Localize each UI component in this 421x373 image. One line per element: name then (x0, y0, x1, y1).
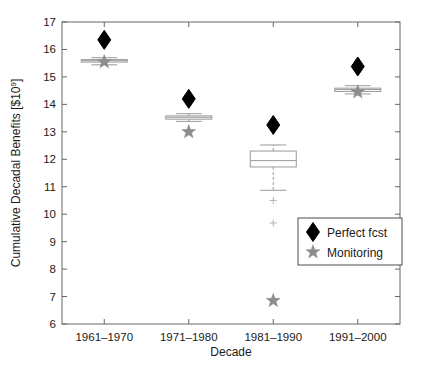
y-tick-label: 11 (44, 181, 56, 193)
plot-axes (62, 22, 400, 324)
plot-frame (62, 22, 400, 324)
box-plot-3 (250, 145, 296, 226)
monitoring-star-marker (351, 85, 365, 98)
y-tick-label: 7 (50, 291, 56, 303)
chart-legend: Perfect fcstMonitoring (298, 218, 402, 265)
y-tick-label: 6 (50, 318, 56, 330)
y-tick-label: 13 (43, 126, 56, 138)
x-axis: 1961–19701971–19801981–19901991–2000 (75, 22, 386, 343)
series-perfect-fcst (98, 30, 365, 134)
box-plot-2 (166, 114, 212, 122)
perfect-fcst-diamond-marker (182, 89, 195, 108)
monitoring-star-marker (97, 55, 111, 68)
y-tick-label: 16 (43, 43, 56, 55)
x-tick-label: 1981–1990 (244, 331, 302, 343)
y-tick-label: 8 (50, 263, 56, 275)
chart-container: 678910111213141516171961–19701971–198019… (0, 0, 421, 373)
perfect-fcst-diamond-marker (267, 115, 280, 134)
x-tick-label: 1961–1970 (75, 331, 133, 343)
y-axis-title-group: Cumulative Decadal Benefits [$109] (9, 79, 23, 268)
perfect-fcst-diamond-marker (98, 30, 111, 49)
y-tick-label: 9 (50, 236, 56, 248)
x-tick-label: 1971–1980 (160, 331, 218, 343)
perfect-fcst-diamond-marker (351, 57, 364, 76)
series-monitoring (97, 55, 364, 307)
monitoring-star-marker (182, 125, 196, 138)
legend-label-text: Perfect fcst (327, 226, 388, 240)
y-tick-label: 10 (43, 208, 56, 220)
y-tick-label: 14 (43, 98, 56, 110)
y-tick-label: 17 (43, 16, 56, 28)
box-iqr (250, 151, 296, 167)
legend-label-text: Monitoring (327, 246, 383, 260)
y-tick-label: 12 (43, 153, 56, 165)
monitoring-star-marker (266, 293, 280, 306)
x-tick-label: 1991–2000 (329, 331, 387, 343)
x-axis-title: Decade (210, 345, 252, 359)
box-plot-chart: 678910111213141516171961–19701971–198019… (0, 0, 421, 373)
y-axis-title: Cumulative Decadal Benefits [$109] (9, 79, 23, 268)
x-axis-title-group: Decade (210, 345, 252, 359)
y-tick-label: 15 (43, 71, 56, 83)
y-axis: 67891011121314151617 (43, 16, 400, 330)
